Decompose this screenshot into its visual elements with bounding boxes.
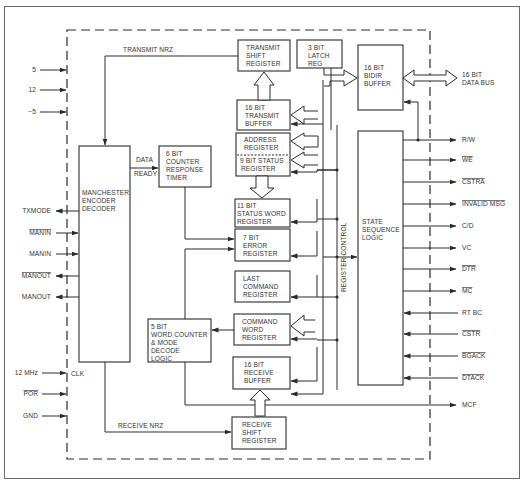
svg-text:WORD: WORD bbox=[242, 326, 263, 333]
data-bus: 16 BIT DATA BUS bbox=[403, 70, 495, 86]
pin-cstr: CSTR bbox=[462, 330, 480, 337]
pin-mcf: MCF bbox=[462, 401, 477, 408]
pin-manin: MANIN bbox=[29, 250, 51, 257]
svg-text:REGISTER: REGISTER bbox=[244, 144, 279, 151]
pin-bgack: BGACK bbox=[462, 352, 486, 359]
svg-text:LATCH: LATCH bbox=[308, 52, 330, 59]
svg-text:SEQUENCE: SEQUENCE bbox=[362, 226, 400, 234]
pin-rw: R/W bbox=[462, 136, 476, 143]
fat-arrow-buffer-to-shift bbox=[254, 72, 274, 100]
svg-text:5 BIT: 5 BIT bbox=[151, 323, 167, 330]
svg-text:LOGIC: LOGIC bbox=[362, 234, 383, 241]
svg-text:LOGIC: LOGIC bbox=[151, 355, 172, 362]
pin-manin-bar: MANIN bbox=[29, 229, 51, 236]
pin-vc: VC bbox=[462, 244, 471, 251]
svg-text:DATA BUS: DATA BUS bbox=[462, 79, 495, 86]
address-register-label: ADDRESS bbox=[244, 136, 277, 143]
svg-text:16 BIT: 16 BIT bbox=[244, 361, 264, 368]
svg-text:RECEIVE: RECEIVE bbox=[244, 369, 274, 376]
svg-text:COMMAND: COMMAND bbox=[242, 318, 278, 325]
svg-text:RESPONSE: RESPONSE bbox=[166, 166, 204, 173]
pin-12mhz: 12 MHz bbox=[15, 369, 38, 376]
pin-dtack: DTACK bbox=[462, 374, 485, 381]
pin-12: 12 bbox=[28, 86, 36, 93]
svg-text:REGISTER: REGISTER bbox=[241, 165, 276, 172]
svg-text:REG: REG bbox=[308, 60, 323, 67]
svg-text:STATUS WORD: STATUS WORD bbox=[237, 210, 286, 217]
svg-text:16 BIT: 16 BIT bbox=[245, 104, 265, 111]
error-register-block: 7 BIT ERROR REGISTER bbox=[235, 229, 290, 261]
svg-text:BUFFER: BUFFER bbox=[364, 80, 391, 87]
svg-text:WORD COUNTER: WORD COUNTER bbox=[151, 331, 208, 338]
data-ready-path: DATA READY bbox=[130, 156, 158, 177]
svg-text:TRANSMIT: TRANSMIT bbox=[245, 112, 280, 119]
svg-text:REGISTER: REGISTER bbox=[242, 437, 277, 444]
pin-gnd: GND bbox=[23, 412, 38, 419]
wordcounter-to-error-line bbox=[185, 249, 234, 319]
svg-text:3 BIT: 3 BIT bbox=[308, 44, 324, 51]
svg-text:TIMER: TIMER bbox=[166, 174, 187, 181]
transmit-nrz-path: TRANSMIT NRZ bbox=[105, 46, 238, 145]
svg-text:REGISTER: REGISTER bbox=[246, 60, 281, 67]
svg-text:TRANSMIT: TRANSMIT bbox=[246, 44, 281, 51]
pin-por: POR bbox=[23, 390, 38, 397]
manchester-encoder-decoder-block: MANCHESTER ENCODER DECODER bbox=[79, 146, 130, 362]
state-sequence-logic-block: STATE SEQUENCE LOGIC bbox=[358, 131, 403, 385]
svg-text:SHIFT: SHIFT bbox=[242, 429, 262, 436]
svg-text:DECODE: DECODE bbox=[151, 347, 180, 354]
svg-text:COMMAND: COMMAND bbox=[243, 283, 279, 290]
pin-minus5: −5 bbox=[28, 108, 36, 115]
bidir-buffer-block: 16 BIT BIDIR BUFFER bbox=[358, 45, 403, 110]
svg-text:READY: READY bbox=[134, 170, 158, 177]
receive-shift-register-block: RECEIVE SHIFT REGISTER bbox=[232, 417, 286, 449]
svg-text:& MODE: & MODE bbox=[151, 339, 178, 346]
transmit-buffer-block: 16 BIT TRANSMIT BUFFER bbox=[237, 100, 290, 130]
svg-text:COUNTER: COUNTER bbox=[166, 158, 199, 165]
pin-we: WE bbox=[462, 156, 473, 163]
pin-manout: MANOUT bbox=[22, 293, 51, 300]
receive-nrz-path: RECEIVE NRZ bbox=[105, 362, 231, 432]
fat-arrow-into-address bbox=[291, 133, 318, 150]
right-pins: R/W WE CSTRA INVALID MSG C/D VC DTR MC R… bbox=[400, 136, 505, 408]
pin-manout-bar: MANOUT bbox=[22, 272, 51, 279]
svg-text:RECEIVE NRZ: RECEIVE NRZ bbox=[118, 422, 163, 429]
svg-text:BIDIR: BIDIR bbox=[364, 72, 382, 79]
command-word-register-block: COMMAND WORD REGISTER bbox=[234, 314, 290, 345]
svg-text:REGISTER: REGISTER bbox=[243, 291, 278, 298]
svg-text:11 BIT: 11 BIT bbox=[237, 202, 257, 209]
svg-text:BUFFER: BUFFER bbox=[245, 120, 272, 127]
svg-text:RECEIVE: RECEIVE bbox=[242, 421, 272, 428]
status-register-9bit-label: 9 BIT STATUS bbox=[240, 157, 284, 164]
timer-to-error-line bbox=[185, 187, 234, 239]
svg-text:6 BIT: 6 BIT bbox=[166, 150, 182, 157]
pin-mc: MC bbox=[462, 287, 473, 294]
fat-arrow-status-to-statusword bbox=[250, 176, 274, 198]
svg-text:DECODER: DECODER bbox=[82, 205, 116, 212]
pin-invalid-msg: INVALID MSG bbox=[462, 200, 505, 207]
rw-feedback-line bbox=[404, 102, 418, 140]
svg-text:MANCHESTER: MANCHESTER bbox=[82, 189, 129, 196]
svg-text:DATA: DATA bbox=[136, 156, 154, 163]
clk-label: CLK bbox=[71, 370, 85, 377]
svg-text:TRANSMIT NRZ: TRANSMIT NRZ bbox=[123, 46, 173, 53]
svg-text:STATE: STATE bbox=[362, 218, 383, 225]
svg-text:16 BIT: 16 BIT bbox=[462, 71, 482, 78]
status-word-register-block: 11 BIT STATUS WORD REGISTER bbox=[235, 199, 290, 227]
svg-text:REGISTER: REGISTER bbox=[237, 218, 272, 225]
register-control-label: REGISTER CONTROL bbox=[340, 222, 347, 292]
fat-arrow-latch-to-bidir bbox=[324, 68, 357, 86]
receive-buffer-block: 16 BIT RECEIVE BUFFER bbox=[233, 357, 290, 389]
word-counter-mode-decode-block: 5 BIT WORD COUNTER & MODE DECODE LOGIC bbox=[148, 319, 211, 362]
svg-text:7 BIT: 7 BIT bbox=[243, 234, 259, 241]
fat-arrow-shift-to-receive-buffer bbox=[250, 390, 270, 416]
transmit-shift-register-block: TRANSMIT SHIFT REGISTER bbox=[238, 40, 290, 71]
svg-text:REGISTER: REGISTER bbox=[243, 250, 278, 257]
fat-arrow-into-command bbox=[291, 315, 315, 336]
counter-response-timer-block: 6 BIT COUNTER RESPONSE TIMER bbox=[159, 146, 211, 187]
pin-rt-bc: RT BC bbox=[462, 309, 482, 316]
block-diagram: TRANSMIT SHIFT REGISTER 3 BIT LATCH REG … bbox=[0, 0, 526, 486]
pin-cstra: CSTRA bbox=[462, 178, 485, 185]
last-command-register-block: LAST COMMAND REGISTER bbox=[235, 271, 290, 302]
pin-cd: C/D bbox=[462, 222, 474, 229]
latch-reg-block: 3 BIT LATCH REG bbox=[297, 40, 342, 68]
